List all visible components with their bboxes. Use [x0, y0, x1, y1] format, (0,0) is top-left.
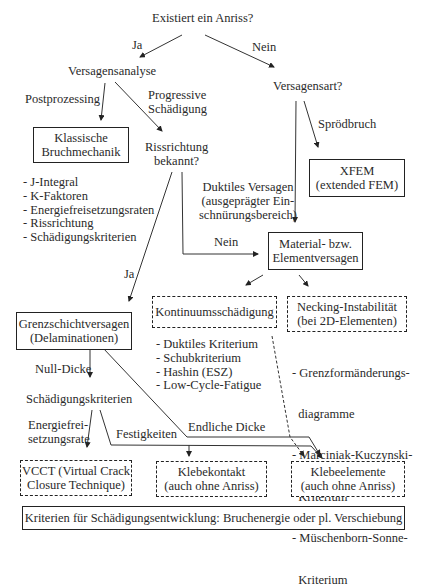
- node-klebekontakt-line1: Klebekontakt: [178, 465, 245, 479]
- edge-label-duktil-line1: Duktiles Versagen: [199, 180, 297, 194]
- node-material-line2: Elementversagen: [272, 251, 358, 265]
- list-item: - K-Faktoren: [23, 190, 154, 204]
- node-klassische-bruchmechanik: Klassische Bruchmechanik: [33, 127, 129, 163]
- list-item: - Duktiles Kriterium: [156, 338, 261, 352]
- edge-label-duktil-line3: schnürungsbereich): [199, 208, 297, 222]
- node-necking-line1: Necking-Instabilität: [297, 300, 397, 314]
- list-item: - J-Integral: [23, 176, 154, 190]
- list-item: diagramme: [292, 408, 412, 422]
- edge-label-duktil-line2: (ausgeprägter Ein-: [199, 194, 297, 208]
- root-question: Existiert ein Anriss?: [152, 11, 253, 25]
- edge-label-null-dicke: Null-Dicke: [35, 362, 91, 376]
- edge-label-energiefreisetzungsrate: Energiefrei- setzungsrate: [28, 418, 90, 446]
- edge-label-ja-mid: Ja: [124, 267, 134, 281]
- list-item: - Low-Cycle-Fatigue: [156, 379, 261, 393]
- edge-label-duktiles-versagen: Duktiles Versagen (ausgeprägter Ein- sch…: [199, 180, 297, 222]
- node-xfem-line1: XFEM: [340, 164, 375, 178]
- node-necking-instabilitaet: Necking-Instabilität (bei 2D-Elementen): [287, 296, 407, 332]
- footer-criteria-box: Kriterien für Schädigungsentwicklung: Br…: [22, 506, 405, 530]
- edge-label-energie-line1: Energiefrei-: [28, 418, 90, 432]
- node-grenzschicht-line2: (Delaminationen): [30, 331, 118, 345]
- list-bruchmechanik: - J-Integral - K-Faktoren - Energiefreis…: [23, 176, 154, 245]
- node-material-elementversagen: Material- bzw. Elementversagen: [268, 232, 363, 270]
- edge-label-sproedbruch: Sprödbruch: [318, 117, 376, 131]
- edge-label-nein-top: Nein: [252, 40, 276, 54]
- node-grenzschichtversagen: Grenzschichtversagen (Delaminationen): [16, 312, 132, 350]
- node-versagensart: Versagensart?: [273, 79, 342, 93]
- edge-label-nein-mid: Nein: [214, 235, 238, 249]
- edge-label-progressive: Progressive Schädigung: [148, 88, 207, 116]
- list-item: - Schädigungskriterien: [23, 231, 154, 245]
- node-vcct: VCCT (Virtual Crack Closure Technique): [20, 460, 132, 496]
- list-item: - Grenzformänderungs-: [292, 367, 412, 381]
- node-grenzschicht-line1: Grenzschichtversagen: [19, 317, 129, 331]
- node-klassische-line1: Klassische: [54, 131, 107, 145]
- node-kontinuumsschaedigung: Kontinuumsschädigung: [152, 296, 277, 328]
- footer-criteria-label: Kriterien für Schädigungsentwicklung: Br…: [25, 511, 403, 525]
- node-vcct-line1: VCCT (Virtual Crack: [22, 464, 130, 478]
- node-xfem-line2: (extended FEM): [316, 178, 398, 192]
- node-kontinuum-label: Kontinuumsschädigung: [155, 305, 274, 319]
- node-vcct-line2: Closure Technique): [27, 478, 125, 492]
- node-klassische-line2: Bruchmechanik: [41, 145, 120, 159]
- list-item: - Hashin (ESZ): [156, 366, 261, 380]
- edge-label-energie-line2: setzungsrate: [28, 432, 90, 446]
- node-versagensanalyse: Versagensanalyse: [68, 64, 156, 78]
- list-item: - Rissrichtung: [23, 217, 154, 231]
- clipped-header-fragment: [8, 0, 11, 7]
- edge-label-progressive-line1: Progressive: [148, 88, 207, 102]
- node-rissrichtung-line2: bekannt?: [145, 154, 208, 168]
- node-klebeelemente-line1: Klebeelemente: [311, 465, 386, 479]
- node-rissrichtung: Rissrichtung bekannt?: [145, 140, 208, 168]
- edge-label-endliche-dicke: Endliche Dicke: [188, 420, 265, 434]
- node-klebekontakt-line2: (auch ohne Anriss): [164, 479, 258, 493]
- node-klebeelemente: Klebeelemente (auch ohne Anriss): [291, 461, 405, 497]
- list-kontinuum: - Duktiles Kriterium - Schubkriterium - …: [156, 338, 261, 393]
- node-necking-line2: (bei 2D-Elementen): [297, 314, 397, 328]
- list-item: - Energiefreisetzungsraten: [23, 204, 154, 218]
- edge-label-festigkeiten: Festigkeiten: [116, 427, 177, 441]
- node-klebeelemente-line2: (auch ohne Anriss): [301, 479, 395, 493]
- node-rissrichtung-line1: Rissrichtung: [145, 140, 208, 154]
- edge-label-ja-top: Ja: [132, 38, 142, 52]
- edge-label-progressive-line2: Schädigung: [148, 102, 207, 116]
- node-schaedigungskriterien: Schädigungskriterien: [26, 392, 132, 406]
- node-material-line1: Material- bzw.: [279, 237, 352, 251]
- list-item: Kriterium: [292, 574, 412, 588]
- node-klebekontakt: Klebekontakt (auch ohne Anriss): [156, 461, 267, 497]
- edge-label-postprozessing: Postprozessing: [25, 92, 100, 106]
- node-xfem: XFEM (extended FEM): [309, 159, 405, 197]
- list-item: - Müschenborn-Sonne-: [292, 532, 412, 546]
- list-item: - Schubkriterium: [156, 352, 261, 366]
